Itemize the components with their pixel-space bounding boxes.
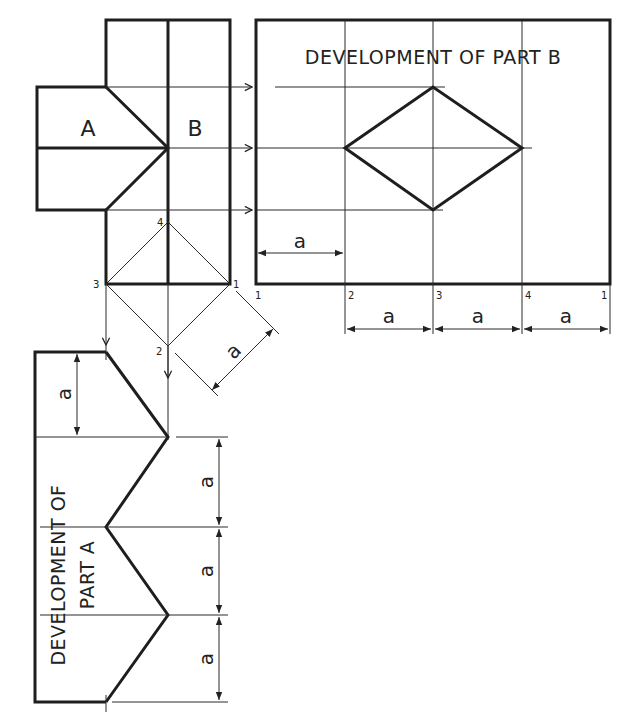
dev-b-dim-a-2: a bbox=[472, 304, 484, 328]
part-b-label: B bbox=[187, 116, 202, 141]
part-b-elevation: B bbox=[106, 20, 230, 284]
dev-b-title: DEVELOPMENT OF PART B bbox=[305, 46, 561, 68]
dev-b-dim-a-3: a bbox=[560, 304, 572, 328]
construction-plan: 4 3 1 2 a bbox=[93, 217, 279, 440]
point-label-3: 3 bbox=[93, 279, 99, 290]
dev-a-dim-a-1: a bbox=[194, 476, 218, 488]
dev-b-dim-a-1: a bbox=[383, 304, 395, 328]
development-part-b: DEVELOPMENT OF PART B a 1 2 3 4 1 a a a bbox=[255, 20, 610, 334]
part-a-label: A bbox=[80, 116, 95, 141]
dev-a-dim-a-top: a bbox=[52, 388, 76, 400]
part-a-elevation: A bbox=[37, 87, 168, 210]
dev-b-point-2: 2 bbox=[348, 290, 354, 301]
dev-b-point-3: 3 bbox=[436, 290, 442, 301]
dev-a-title-line2: PART A bbox=[76, 541, 98, 610]
dev-b-point-1: 1 bbox=[255, 290, 261, 301]
dev-b-point-1-end: 1 bbox=[601, 290, 607, 301]
development-part-a: a a a a DEVELOPMENT OF PART A bbox=[35, 345, 228, 712]
point-label-2: 2 bbox=[156, 346, 162, 357]
point-label-4: 4 bbox=[157, 217, 163, 228]
dev-a-dim-a-3: a bbox=[194, 653, 218, 665]
dev-b-dim-a-inner: a bbox=[294, 229, 306, 253]
dev-b-point-4: 4 bbox=[525, 290, 531, 301]
dev-a-dim-a-2: a bbox=[194, 565, 218, 577]
development-drawing: B A 4 3 1 2 a DEV bbox=[0, 0, 636, 727]
point-label-1: 1 bbox=[233, 279, 239, 290]
projection-lines bbox=[106, 87, 532, 210]
dev-a-title-line1: DEVELOPMENT OF bbox=[47, 484, 69, 665]
